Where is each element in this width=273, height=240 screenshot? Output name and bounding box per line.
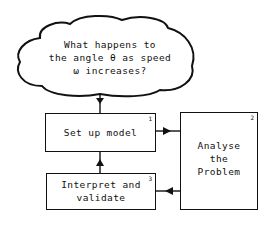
step-1-label: Set up model bbox=[46, 126, 155, 139]
arrowhead-left-icon bbox=[165, 187, 173, 195]
step-3-label-line-2: validate bbox=[47, 191, 155, 204]
question-line-1: What happens to bbox=[30, 38, 190, 51]
arrowhead-up-icon bbox=[96, 159, 104, 166]
arrowhead-right-icon bbox=[163, 127, 171, 135]
step-1-number: 1 bbox=[148, 115, 152, 122]
step-1-box: 1 Set up model bbox=[45, 113, 156, 152]
question-text: What happens to the angle θ as speed ω i… bbox=[30, 38, 190, 77]
step-2-label-line-2: the bbox=[181, 152, 257, 165]
step-2-label: Analyse the Problem bbox=[181, 139, 257, 178]
arrowhead-down-icon bbox=[96, 98, 104, 104]
step-3-box: 3 Interpret and validate bbox=[46, 173, 156, 210]
step-3-label-line-1: Interpret and bbox=[47, 178, 155, 191]
question-line-3: ω increases? bbox=[30, 64, 190, 77]
step-2-box: 2 Analyse the Problem bbox=[180, 112, 258, 210]
step-2-label-line-3: Problem bbox=[181, 165, 257, 178]
step-2-label-line-1: Analyse bbox=[181, 139, 257, 152]
step-3-label: Interpret and validate bbox=[47, 178, 155, 204]
step-2-number: 2 bbox=[250, 114, 254, 121]
question-line-2: the angle θ as speed bbox=[30, 51, 190, 64]
